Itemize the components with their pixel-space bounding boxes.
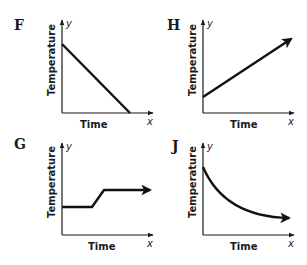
answer-choice-graphs: F y x Temperature Time H y x Temperature…	[0, 0, 307, 265]
y-axis-title: Temperature	[46, 24, 57, 96]
y-axis-title: Temperature	[187, 146, 198, 218]
y-axis-title: Temperature	[46, 146, 57, 218]
x-axis-title: Time	[80, 119, 108, 130]
graph-h: H y x Temperature Time	[167, 17, 294, 130]
y-axis-var: y	[206, 141, 214, 152]
x-axis-title: Time	[230, 119, 258, 130]
data-line	[62, 190, 150, 207]
data-line	[203, 39, 291, 97]
data-curve	[203, 167, 289, 218]
x-axis-title: Time	[230, 241, 258, 252]
y-axis-var: y	[65, 141, 73, 152]
x-axis-var: x	[146, 238, 153, 249]
panel-label-j: J	[170, 138, 179, 154]
graph-g: G y x Temperature Time	[14, 136, 153, 252]
graph-f: F y x Temperature Time	[14, 17, 153, 130]
y-axis-var: y	[65, 18, 73, 29]
data-line	[62, 44, 130, 113]
graph-j: J y x Temperature Time	[170, 138, 294, 252]
panel-label-g: G	[14, 136, 26, 152]
y-axis-title: Temperature	[187, 24, 198, 96]
x-axis-var: x	[287, 238, 294, 249]
y-axis-var: y	[206, 18, 214, 29]
x-axis-var: x	[287, 116, 294, 127]
panel-label-f: F	[14, 17, 24, 33]
x-axis-var: x	[146, 116, 153, 127]
panel-label-h: H	[167, 17, 180, 33]
x-axis-title: Time	[88, 241, 116, 252]
